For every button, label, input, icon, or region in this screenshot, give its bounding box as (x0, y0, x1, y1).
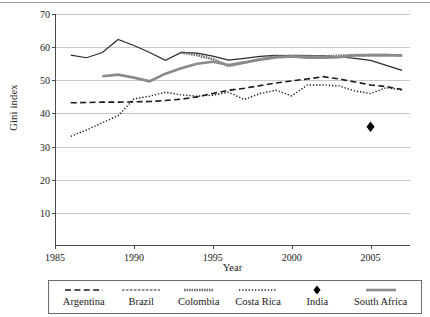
legend-swatch-colombia (178, 285, 220, 294)
legend-label: Costa Rica (235, 295, 281, 308)
legend-swatch-south-africa (360, 285, 402, 294)
y-tick-label: 40 (40, 108, 50, 119)
data-point-marker-india (366, 121, 374, 131)
x-axis-title: Year (55, 262, 410, 273)
data-line-costa-rica (71, 85, 402, 136)
legend-item-south-africa[interactable]: South Africa (352, 285, 409, 308)
legend-label: Brazil (128, 295, 154, 308)
data-line-argentina (71, 77, 402, 103)
y-tick-label: 20 (40, 174, 50, 185)
y-tick-label: 70 (40, 9, 50, 20)
legend-swatch-costa-rica (237, 285, 279, 294)
legend-item-costa-rica[interactable]: Costa Rica (233, 285, 283, 308)
x-tick-mark (55, 246, 56, 249)
legend-label: India (307, 295, 329, 308)
legend-swatch-india (296, 285, 338, 294)
plot-area: 1020304050607019851990199520002005 (55, 14, 410, 246)
legend-item-argentina[interactable]: Argentina (61, 285, 107, 308)
legend-item-india[interactable]: India (294, 285, 340, 308)
chart-legend: ArgentinaBrazilColombiaCosta RicaIndiaSo… (48, 280, 422, 314)
x-tick-mark (213, 246, 214, 249)
y-axis-title: Gini index (8, 73, 19, 143)
legend-swatch-argentina (63, 285, 105, 294)
y-tick-label: 10 (40, 207, 50, 218)
legend-swatch-brazil (120, 285, 162, 294)
x-tick-mark (371, 246, 372, 249)
legend-label: Argentina (63, 295, 105, 308)
page-top-rule (0, 2, 430, 3)
legend-label: Colombia (178, 295, 219, 308)
legend-row: ArgentinaBrazilColombiaCosta RicaIndiaSo… (49, 281, 421, 313)
y-tick-label: 50 (40, 75, 50, 86)
x-tick-mark (134, 246, 135, 249)
chart-page: Gini index 10203040506070198519901995200… (0, 0, 430, 317)
legend-label: South Africa (354, 295, 407, 308)
legend-item-brazil[interactable]: Brazil (118, 285, 164, 308)
legend-item-colombia[interactable]: Colombia (176, 285, 222, 308)
chart-figure: Gini index 10203040506070198519901995200… (0, 4, 430, 317)
y-tick-label: 60 (40, 42, 50, 53)
data-series-layer (55, 14, 410, 246)
x-tick-mark (292, 246, 293, 249)
y-tick-label: 30 (40, 141, 50, 152)
